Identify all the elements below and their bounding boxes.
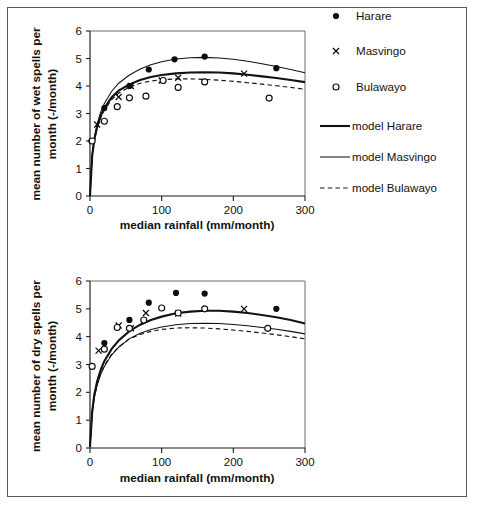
marker-harare	[126, 317, 132, 323]
y-axis-title-line2: month (-/month)	[45, 69, 59, 159]
y-tick-label: 5	[76, 53, 82, 65]
marker-bulawayo	[126, 95, 132, 101]
curve-model-bulawayo	[90, 79, 305, 196]
y-axis-title-line1: mean number of wet spells per	[29, 27, 43, 200]
x-tick-label: 0	[87, 456, 93, 468]
x-tick-label: 0	[87, 204, 93, 216]
legend-label: model Harare	[352, 119, 422, 132]
y-axis-ticks-dry: 0123456	[76, 275, 90, 454]
y-tick-label: 3	[76, 359, 82, 371]
y-tick-label: 4	[76, 331, 83, 343]
y-tick-label: 0	[76, 442, 82, 454]
y-axis-title-line1: mean number of dry spells per	[29, 280, 43, 452]
marker-bulawayo	[266, 95, 272, 101]
marker-harare	[171, 56, 177, 62]
marker-bulawayo	[202, 79, 208, 85]
y-tick-label: 2	[76, 386, 82, 398]
marker-bulawayo	[126, 325, 132, 331]
marker-harare	[173, 290, 179, 296]
y-tick-label: 0	[76, 190, 82, 202]
curve-model-harare	[90, 72, 305, 196]
marker-bulawayo	[265, 325, 271, 331]
marker-harare	[101, 340, 107, 346]
y-tick-label: 4	[76, 80, 83, 92]
marker-bulawayo	[160, 78, 166, 84]
marker-harare	[273, 65, 279, 71]
marker-bulawayo	[159, 305, 165, 311]
y-tick-label: 1	[76, 163, 82, 175]
x-axis-ticks-wet: 0100200300	[87, 196, 315, 216]
plot-frame-wet	[90, 31, 305, 196]
legend-marker-filled-circle	[333, 13, 339, 19]
marker-bulawayo	[89, 363, 95, 369]
marker-bulawayo	[89, 138, 95, 144]
marker-harare	[101, 105, 107, 111]
legend-item-masvingo: Masvingo	[333, 44, 406, 57]
marker-bulawayo	[202, 306, 208, 312]
marker-harare	[146, 300, 152, 306]
chart-panel-wet-spells: 0123456 0100200300 mean number of wet sp…	[0, 0, 480, 254]
marker-harare	[273, 306, 279, 312]
legend-marker-cross	[333, 48, 339, 54]
y-axis-title-wet: mean number of wet spells per month (-/m…	[29, 27, 59, 200]
legend-label: Masvingo	[356, 44, 406, 57]
model-curves-wet	[90, 57, 305, 196]
marker-masvingo	[96, 348, 102, 354]
y-tick-label: 3	[76, 108, 82, 120]
y-axis-ticks-wet: 0123456	[76, 25, 90, 202]
data-points-wet	[88, 53, 279, 144]
curve-model-bulawayo	[90, 328, 305, 447]
chart-legend: HarareMasvingoBulawayomodel Hararemodel …	[320, 9, 437, 194]
legend-item-model-bulawayo: model Bulawayo	[320, 181, 437, 194]
marker-bulawayo	[175, 310, 181, 316]
y-tick-label: 6	[76, 25, 82, 37]
x-tick-label: 300	[295, 456, 314, 468]
x-axis-title-dry: median rainfall (mm/month)	[120, 471, 275, 485]
marker-masvingo	[143, 310, 149, 316]
curve-model-harare	[90, 311, 305, 447]
legend-item-bulawayo: Bulawayo	[333, 80, 406, 93]
y-axis-title-line2: month (-/month)	[45, 321, 59, 411]
figure-page: 0123456 0100200300 mean number of wet sp…	[0, 0, 480, 508]
legend-item-model-harare: model Harare	[320, 119, 422, 132]
legend-label: model Bulawayo	[352, 181, 437, 194]
marker-bulawayo	[114, 104, 120, 110]
marker-harare	[146, 66, 152, 72]
x-tick-label: 200	[224, 456, 243, 468]
curve-model-masvingo	[90, 323, 305, 446]
y-tick-label: 5	[76, 303, 82, 315]
legend-label: model Masvingo	[352, 150, 436, 163]
legend-label: Harare	[356, 9, 391, 22]
axes-wet	[90, 31, 305, 196]
model-curves-dry	[90, 311, 305, 447]
plot-frame-dry	[90, 281, 305, 448]
marker-masvingo	[116, 94, 122, 100]
marker-bulawayo	[143, 93, 149, 99]
y-axis-title-dry: mean number of dry spells per month (-/m…	[29, 280, 59, 452]
marker-bulawayo	[114, 324, 120, 330]
marker-masvingo	[241, 306, 247, 312]
marker-harare	[202, 53, 208, 59]
x-axis-ticks-dry: 0100200300	[87, 448, 315, 468]
chart-panel-dry-spells: 0123456 0100200300 mean number of dry sp…	[0, 254, 480, 508]
x-tick-label: 200	[224, 204, 243, 216]
legend-item-harare: Harare	[333, 9, 392, 22]
x-tick-label: 300	[295, 204, 314, 216]
axes-dry	[90, 281, 305, 448]
y-tick-label: 6	[76, 275, 82, 287]
x-tick-label: 100	[152, 204, 171, 216]
marker-masvingo	[175, 75, 181, 81]
y-tick-label: 1	[76, 414, 82, 426]
marker-bulawayo	[101, 346, 107, 352]
legend-marker-open-circle	[333, 84, 339, 90]
x-axis-title-wet: median rainfall (mm/month)	[120, 218, 275, 232]
marker-harare	[202, 290, 208, 296]
legend-item-model-masvingo: model Masvingo	[320, 150, 436, 163]
y-tick-label: 2	[76, 135, 82, 147]
legend-label: Bulawayo	[356, 80, 406, 93]
marker-bulawayo	[101, 118, 107, 124]
data-points-dry	[89, 290, 279, 370]
marker-bulawayo	[175, 84, 181, 90]
x-tick-label: 100	[152, 456, 171, 468]
marker-bulawayo	[141, 317, 147, 323]
